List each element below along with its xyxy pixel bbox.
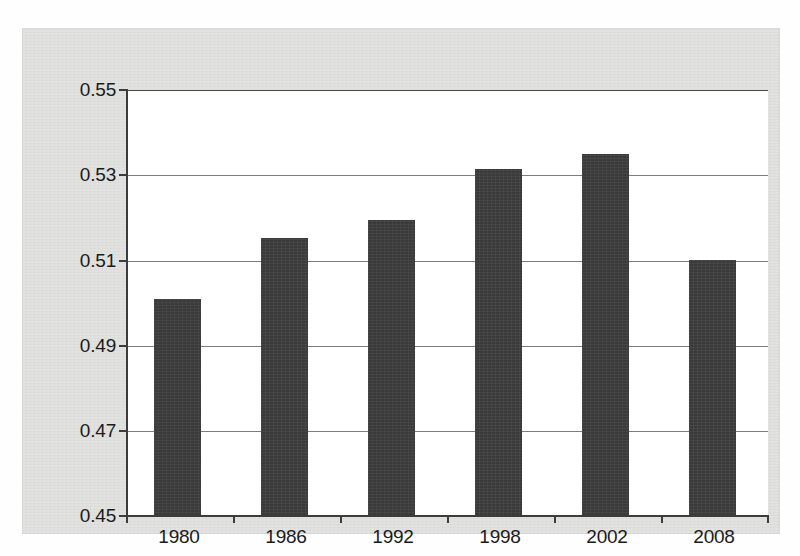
y-axis-label-0.55: 0.55	[56, 79, 116, 101]
x-axis-label-2008: 2008	[662, 526, 766, 548]
y-axis-line	[126, 89, 128, 517]
x-axis-label-1998: 1998	[448, 526, 552, 548]
y-axis-label-0.53: 0.53	[56, 164, 116, 186]
gridline-0.55	[127, 90, 768, 91]
y-tick-0.55	[119, 89, 127, 91]
y-tick-0.47	[119, 430, 127, 432]
bar-2002[interactable]	[582, 154, 629, 516]
gridline-0.53	[127, 175, 768, 176]
y-axis-label-0.47: 0.47	[56, 420, 116, 442]
chart-figure-panel: 0.55 0.53 0.51 0.49 0.47 0.45 1980 1986 …	[22, 28, 780, 534]
x-axis-label-1986: 1986	[234, 526, 338, 548]
x-axis-label-1992: 1992	[341, 526, 445, 548]
x-axis-label-1980: 1980	[127, 526, 231, 548]
x-tick-5	[661, 516, 663, 523]
y-tick-0.53	[119, 174, 127, 176]
y-axis-label-0.45: 0.45	[56, 505, 116, 527]
plot-area	[127, 90, 768, 516]
y-axis-label-0.49: 0.49	[56, 335, 116, 357]
x-tick-3	[447, 516, 449, 523]
bar-1992[interactable]	[368, 220, 415, 516]
gridline-0.49	[127, 346, 768, 347]
y-tick-0.51	[119, 260, 127, 262]
x-axis-label-2002: 2002	[555, 526, 659, 548]
gridline-0.51	[127, 261, 768, 262]
x-tick-6	[767, 516, 769, 523]
gridline-0.47	[127, 431, 768, 432]
scanned-page: 0.55 0.53 0.51 0.49 0.47 0.45 1980 1986 …	[0, 0, 800, 556]
x-tick-1	[233, 516, 235, 523]
bar-1980[interactable]	[154, 299, 201, 516]
y-axis-label-0.51: 0.51	[56, 250, 116, 272]
y-tick-0.49	[119, 345, 127, 347]
bar-1986[interactable]	[261, 238, 308, 516]
x-tick-0	[126, 516, 128, 523]
bar-1998[interactable]	[475, 169, 522, 516]
x-tick-2	[340, 516, 342, 523]
x-tick-4	[554, 516, 556, 523]
bar-2008[interactable]	[689, 260, 736, 516]
